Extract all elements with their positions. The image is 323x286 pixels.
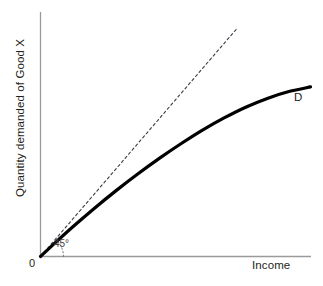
angle-label-45: 45° [54, 238, 69, 249]
y-axis-title: Quantity demanded of Good X [14, 18, 26, 218]
x-axis-title: Income [252, 259, 290, 271]
demand-curve-d [41, 87, 311, 257]
chart-plot-area [0, 0, 323, 286]
origin-label: 0 [29, 257, 35, 269]
forty-five-degree-line [41, 28, 238, 256]
engel-curve-chart: Quantity demanded of Good X Income 0 D 4… [0, 0, 323, 286]
curve-label-d: D [294, 91, 302, 103]
